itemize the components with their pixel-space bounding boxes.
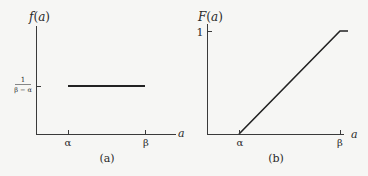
panel-a-y-tick-numerator: 1 (21, 76, 25, 84)
panel-a: f(a) 1 β − α α β a (a) (14, 10, 184, 165)
panel-b-x-tick-label-beta: β (337, 137, 343, 148)
panel-a-x-label: a (178, 127, 185, 140)
panel-b: F(a) 1 α β a (b) (197, 10, 358, 165)
panel-a-x-tick-label-alpha: α (65, 137, 72, 148)
panel-a-caption: (a) (99, 152, 114, 165)
panel-b-x-label: a (351, 128, 358, 141)
panel-b-x-tick-label-alpha: α (237, 137, 244, 148)
panel-b-caption: (b) (268, 152, 284, 165)
panel-b-cdf-line (239, 31, 348, 134)
panel-b-y-tick-label: 1 (197, 26, 204, 39)
figure: f(a) 1 β − α α β a (a) F(a) 1 α (0, 0, 368, 176)
panel-a-y-label: f(a) (28, 10, 50, 24)
panel-a-x-tick-label-beta: β (143, 137, 149, 148)
panel-a-y-tick-denominator: β − α (14, 86, 32, 94)
panel-b-y-label: F(a) (197, 10, 223, 24)
